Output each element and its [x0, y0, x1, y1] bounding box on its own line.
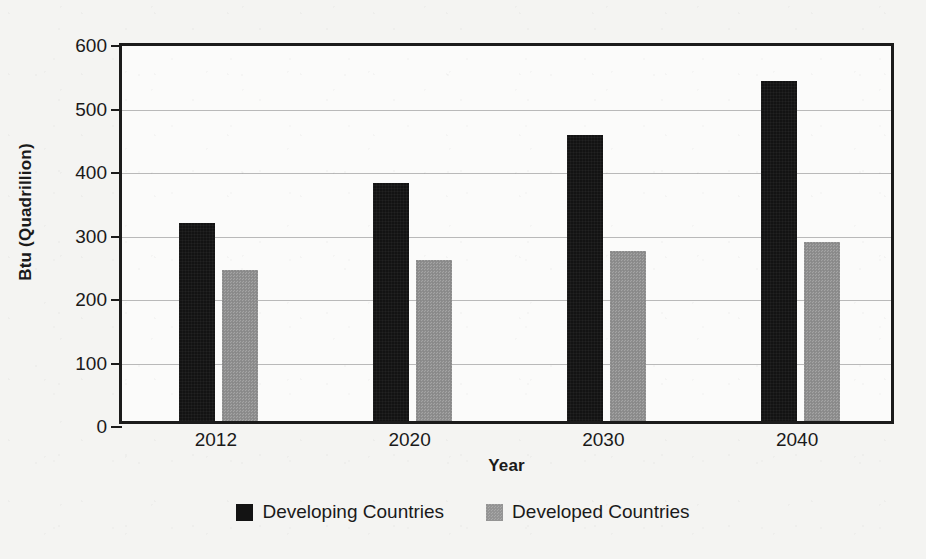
y-tick-mark [111, 426, 122, 428]
bar [761, 81, 797, 421]
bar [804, 242, 840, 421]
x-axis-tick-labels: 2012202020302040 [119, 429, 894, 457]
y-tick-label: 400 [75, 162, 107, 184]
x-tick-label: 2040 [776, 429, 818, 451]
plot-area: 0100200300400500600 [119, 43, 894, 424]
y-axis-title: Btu (Quadrillion) [6, 0, 46, 424]
x-tick-label: 2030 [582, 429, 624, 451]
bar-group [179, 46, 258, 421]
y-tick-mark [111, 236, 122, 238]
legend-item: Developing Countries [236, 501, 444, 523]
y-tick-label: 200 [75, 289, 107, 311]
y-tick-label: 500 [75, 99, 107, 121]
y-tick-mark [111, 45, 122, 47]
bar [567, 135, 603, 421]
x-tick-label: 2020 [388, 429, 430, 451]
bar [416, 260, 452, 421]
x-tick-label: 2012 [195, 429, 237, 451]
y-tick-mark [111, 363, 122, 365]
bar [179, 223, 215, 421]
bar [222, 270, 258, 421]
bar-group [373, 46, 452, 421]
legend-label: Developed Countries [512, 501, 689, 523]
y-tick-label: 100 [75, 353, 107, 375]
bar-group [567, 46, 646, 421]
legend-item: Developed Countries [486, 501, 689, 523]
y-tick-label: 600 [75, 35, 107, 57]
bar [373, 183, 409, 421]
bar [610, 251, 646, 421]
y-tick-mark [111, 172, 122, 174]
y-tick-mark [111, 109, 122, 111]
y-axis-title-text: Btu (Quadrillion) [16, 143, 36, 281]
gray-square-swatch [486, 504, 503, 521]
y-tick-mark [111, 299, 122, 301]
y-tick-label: 300 [75, 226, 107, 248]
x-axis-title: Year [119, 456, 894, 476]
bars-layer [122, 46, 891, 421]
legend-label: Developing Countries [262, 501, 444, 523]
bar-chart-figure: Btu (Quadrillion) 0100200300400500600 20… [0, 0, 926, 559]
black-square-swatch [236, 504, 253, 521]
chart-legend: Developing CountriesDeveloped Countries [0, 501, 926, 523]
bar-group [761, 46, 840, 421]
y-tick-label: 0 [96, 416, 107, 438]
